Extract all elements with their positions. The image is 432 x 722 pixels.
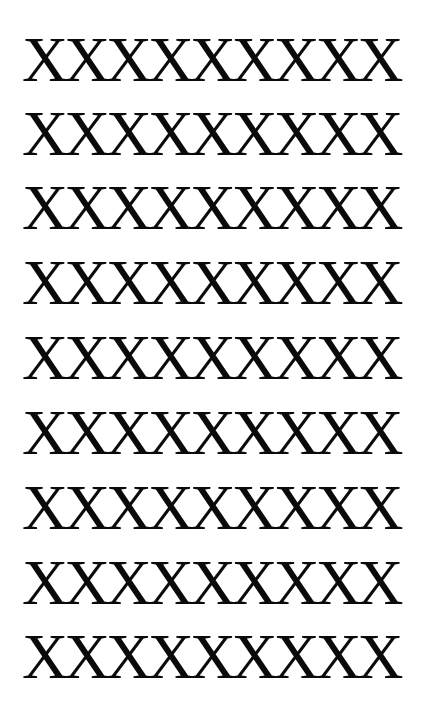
text-line: XXXXXXXXX bbox=[22, 28, 399, 92]
text-line: XXXXXXXXX bbox=[22, 326, 399, 390]
text-line: XXXXXXXXX bbox=[22, 102, 399, 166]
document-page: XXXXXXXXX XXXXXXXXX XXXXXXXXX XXXXXXXXX … bbox=[0, 0, 432, 722]
text-line: XXXXXXXXX bbox=[22, 476, 399, 540]
text-line: XXXXXXXXX bbox=[22, 401, 399, 465]
text-line: XXXXXXXXX bbox=[22, 176, 399, 240]
text-line: XXXXXXXXX bbox=[22, 551, 399, 615]
text-line: XXXXXXXXX bbox=[22, 625, 399, 689]
text-line: XXXXXXXXX bbox=[22, 251, 399, 315]
